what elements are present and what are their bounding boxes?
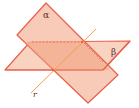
intersection-point-back xyxy=(81,41,83,43)
label-r: r xyxy=(33,90,38,99)
label-beta: β xyxy=(111,47,116,57)
label-alpha: α xyxy=(43,10,49,20)
intersecting-planes-diagram: α β r xyxy=(0,0,139,108)
intersection-point-front xyxy=(52,69,54,71)
